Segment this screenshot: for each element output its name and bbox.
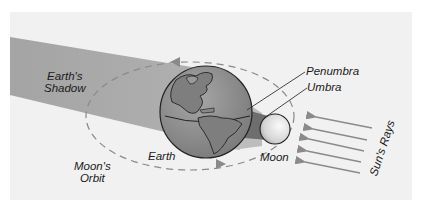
earths-shadow-label-line2: Shadow (44, 82, 86, 94)
suns-rays (305, 117, 372, 173)
earth (160, 66, 252, 158)
umbra-leader (264, 88, 307, 118)
moon (260, 114, 290, 144)
orbit-arrow-bottom-icon (216, 159, 226, 169)
sun-ray-arrow-icon (307, 151, 361, 162)
penumbra-label: Penumbra (306, 65, 359, 77)
earths-shadow-label-line1: Earth's (44, 70, 86, 82)
earth-label: Earth (148, 150, 176, 162)
sun-ray-arrow-icon (313, 129, 367, 140)
moon-label: Moon (260, 151, 289, 163)
earths-shadow-label: Earth's Shadow (44, 70, 86, 94)
umbra-label: Umbra (307, 81, 342, 93)
sun-ray-arrow-icon (305, 162, 360, 173)
moons-orbit-label: Moon's Orbit (74, 160, 111, 184)
sun-ray-arrow-icon (309, 139, 364, 151)
moons-orbit-label-line2: Orbit (74, 172, 111, 184)
lunar-eclipse-diagram (0, 0, 422, 210)
penumbra-leader (247, 72, 305, 110)
moons-orbit-label-line1: Moon's (74, 160, 111, 172)
sun-ray-arrow-icon (316, 117, 372, 128)
